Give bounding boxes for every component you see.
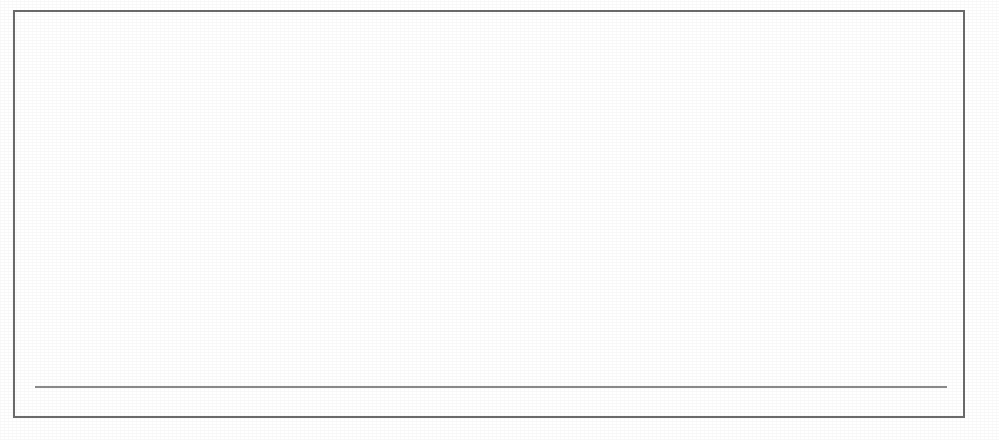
plot-area: [35, 90, 947, 387]
legend-swatch-private-icon: [423, 35, 435, 47]
chart-frame: [13, 10, 965, 418]
legend-item-private[interactable]: [423, 35, 443, 47]
stacked-bar-2007[interactable]: [658, 90, 760, 387]
stacked-bar-1997[interactable]: [277, 90, 379, 387]
stacked-bar-2002[interactable]: [464, 90, 566, 387]
x-axis-tick-labels: [35, 395, 947, 425]
x-axis-line: [35, 386, 947, 388]
legend-item-government[interactable]: [535, 35, 555, 47]
stacked-bar-1992[interactable]: [85, 90, 187, 387]
legend-swatch-government-icon: [535, 35, 547, 47]
stacked-bar-2012[interactable]: [848, 90, 950, 387]
chart-legend: [15, 26, 963, 56]
